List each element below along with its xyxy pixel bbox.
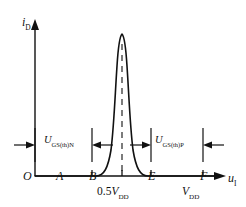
point-label-a: A: [56, 170, 63, 182]
origin-label: O: [23, 170, 32, 182]
ugsn-symbol: U: [44, 134, 52, 145]
transfer-characteristic-figure: [0, 0, 246, 207]
point-label-f: F: [200, 170, 207, 182]
y-axis-label: iD: [22, 16, 31, 31]
x-value-label-vdd: VDD: [182, 186, 199, 200]
point-label-e: E: [148, 170, 155, 182]
vdd-symbol: V: [182, 185, 189, 197]
vdd-subscript: DD: [189, 193, 199, 201]
dim-p-left-arrowhead: [142, 142, 151, 149]
x-value-label-half-vdd: 0.5VDD: [97, 186, 129, 200]
ugsp-subscript: GS(th)P: [163, 141, 184, 148]
y-axis-subscript: D: [25, 23, 30, 32]
dim-p-right-arrowhead: [203, 142, 212, 149]
dim-n-right-arrowhead: [92, 142, 101, 149]
ugsn-subscript: GS(th)N: [52, 141, 74, 148]
x-axis-label: uI: [228, 172, 236, 187]
half-vdd-subscript: DD: [118, 193, 128, 201]
y-axis-arrowhead: [31, 19, 39, 30]
half-vdd-prefix: 0.5: [97, 185, 111, 197]
point-label-b: B: [89, 170, 96, 182]
annotation-label-ugs-th-n: UGS(th)N: [44, 135, 74, 148]
ugsp-symbol: U: [155, 134, 163, 145]
annotation-label-ugs-th-p: UGS(th)P: [155, 135, 184, 148]
drain-current-curve: [35, 34, 218, 176]
dim-n-left-arrowhead: [26, 142, 35, 149]
